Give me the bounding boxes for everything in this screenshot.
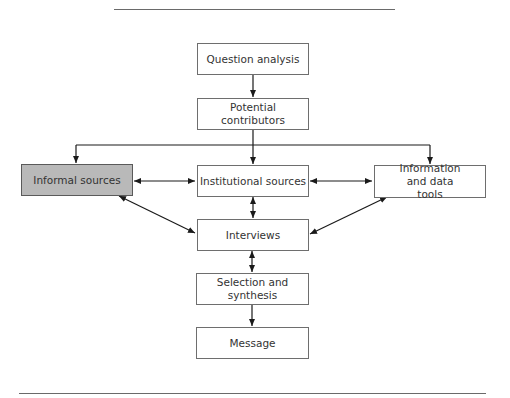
node-institutional-sources: Institutional sources <box>197 165 309 197</box>
node-selection-synthesis: Selection and synthesis <box>196 273 309 305</box>
node-label: Potential contributors <box>198 101 308 127</box>
edge-informal-interviews <box>119 196 195 233</box>
node-label: Informal sources <box>33 174 120 187</box>
node-information-data-tools: Information and data tools <box>374 165 486 198</box>
node-label: Information and data tools <box>393 162 467 201</box>
node-interviews: Interviews <box>197 219 309 251</box>
node-question-analysis: Question analysis <box>197 43 309 75</box>
node-label: Interviews <box>226 229 280 242</box>
node-label: Question analysis <box>207 53 300 66</box>
node-label: Message <box>229 337 275 350</box>
node-potential-contributors: Potential contributors <box>197 98 309 130</box>
node-label: Selection and synthesis <box>197 276 308 302</box>
edge-information-interviews <box>310 197 387 234</box>
node-message: Message <box>196 327 309 359</box>
node-informal-sources: Informal sources <box>21 164 133 196</box>
node-label: Institutional sources <box>200 175 306 188</box>
